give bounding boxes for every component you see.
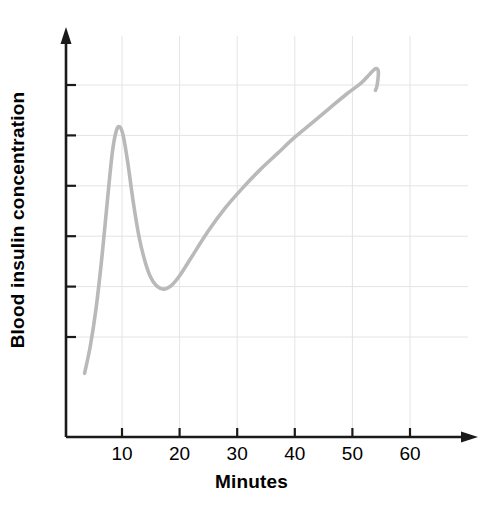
x-tick-label-20: 20 [158,443,202,465]
y-axis-title-text: Blood insulin concentration [7,92,29,349]
x-axis-title-text: Minutes [215,471,288,492]
y-axis-arrowhead [61,27,72,44]
y-axis-ticks [66,85,76,337]
x-tick-label-30: 30 [215,443,259,465]
x-tick-label-50: 50 [330,443,374,465]
gridlines [66,36,468,437]
chart-canvas [0,0,503,514]
x-axis-ticks [122,428,410,437]
insulin-concentration-chart: Blood insulin concentration Minutes 1020… [0,0,503,514]
insulin-curve [85,69,379,374]
x-tick-label-60: 60 [388,443,432,465]
axis-lines [61,27,479,443]
x-tick-label-10: 10 [100,443,144,465]
y-axis-title: Blood insulin concentration [0,0,36,440]
x-tick-label-40: 40 [273,443,317,465]
x-axis-arrowhead [461,432,478,443]
x-axis-title: Minutes [0,471,503,493]
